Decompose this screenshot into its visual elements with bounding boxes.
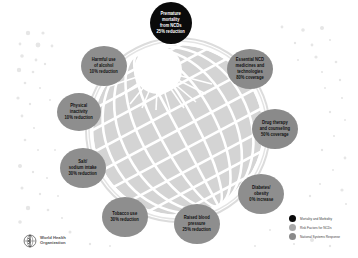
node-harmful-alcohol: Harmful use of alcohol 10% reduction [81, 46, 127, 86]
node-line: 30% reduction [111, 217, 139, 223]
node-line: 10% reduction [90, 69, 118, 75]
node-salt-sodium: Salt/ sodium intake 30% reduction [60, 148, 106, 188]
node-line: 0% increase [249, 197, 273, 203]
node-line: 30% reduction [69, 171, 97, 177]
who-logo: World Health Organization [23, 234, 66, 248]
logo-text-line2: Organization [40, 241, 66, 246]
legend-swatch-icon [289, 233, 296, 240]
who-emblem-icon [23, 234, 37, 248]
node-drug-therapy: Drug therapy and counseling 50% coverage [252, 109, 298, 149]
node-line: 50% coverage [260, 132, 290, 138]
node-diabetes-obesity: Diabetes/ obesity 0% increase [238, 174, 284, 214]
node-tobacco-use: Tobacco use 30% reduction [102, 197, 148, 237]
node-raised-blood-pressure: Raised blood pressure 25% reduction [174, 204, 220, 244]
legend-item-mortality: Mortality and Morbidity [289, 215, 332, 222]
legend-item-national-systems: National Systems Response [289, 233, 340, 240]
legend-swatch-icon [289, 224, 296, 231]
node-line: 10% reduction [65, 115, 93, 121]
node-essential-medicines: Essential NCD medicines and technologies… [227, 49, 273, 89]
ncd-targets-diagram: Premature mortality from NCDs 25% reduct… [0, 0, 358, 258]
legend-swatch-icon [289, 215, 296, 222]
node-line: 80% coverage [236, 75, 265, 81]
node-line: 25% reduction [183, 227, 211, 233]
node-line: 25% reduction [157, 29, 185, 35]
node-physical-inactivity: Physical inactivity 10% reduction [57, 93, 101, 131]
legend-item-risk-factors: Risk Factors for NCDs [289, 224, 332, 231]
node-premature-mortality: Premature mortality from NCDs 25% reduct… [150, 2, 192, 44]
